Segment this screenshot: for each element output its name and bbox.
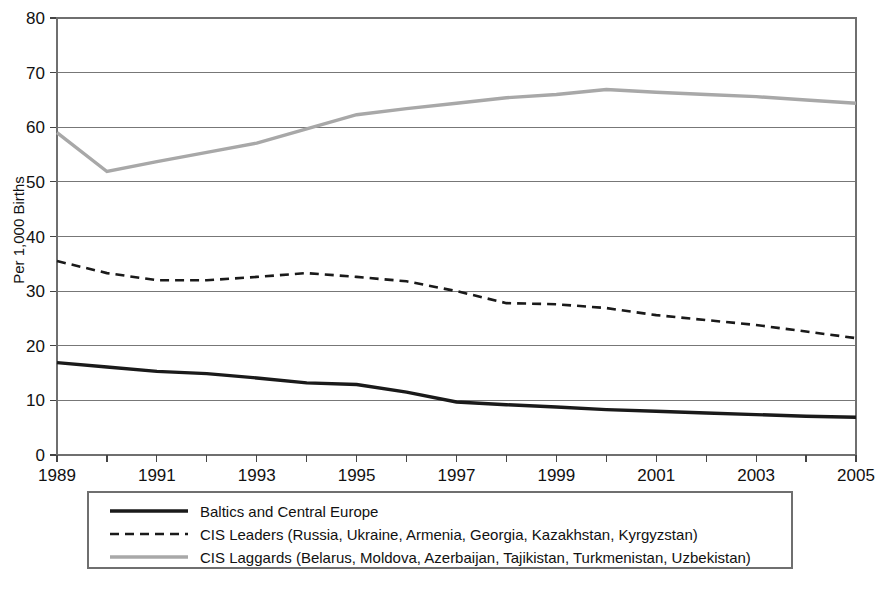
y-tick-label: 0 (36, 446, 45, 465)
legend-label-2: CIS Leaders (Russia, Ukraine, Armenia, G… (200, 526, 698, 543)
y-tick-label: 80 (26, 9, 45, 28)
chart-container: Per 1,000 Births 01020304050607080 19891… (0, 0, 883, 593)
y-tick-label: 70 (26, 64, 45, 83)
x-tick-label: 2003 (737, 466, 775, 485)
x-tick-labels: 198919911993199519971999200120032005 (38, 466, 875, 485)
chart-legend: Baltics and Central EuropeCIS Leaders (R… (88, 492, 792, 568)
y-tick-label: 30 (26, 282, 45, 301)
x-tick-label: 1989 (38, 466, 76, 485)
x-tick-label: 1991 (138, 466, 176, 485)
legend-label-3: CIS Laggards (Belarus, Moldova, Azerbaij… (200, 549, 751, 566)
y-tick-label: 40 (26, 228, 45, 247)
y-tick-label: 10 (26, 391, 45, 410)
legend-label-1: Baltics and Central Europe (200, 503, 378, 520)
x-tick-label: 1997 (438, 466, 476, 485)
x-tick-label: 1993 (238, 466, 276, 485)
y-tick-label: 60 (26, 118, 45, 137)
x-tick-label: 1995 (338, 466, 376, 485)
x-tick-label: 2005 (837, 466, 875, 485)
x-tick-label: 2001 (637, 466, 675, 485)
y-axis-title: Per 1,000 Births (10, 176, 27, 284)
y-tick-label: 20 (26, 337, 45, 356)
y-tick-labels: 01020304050607080 (26, 9, 45, 465)
x-tick-label: 1999 (537, 466, 575, 485)
line-chart: Per 1,000 Births 01020304050607080 19891… (0, 0, 883, 593)
y-tick-label: 50 (26, 173, 45, 192)
